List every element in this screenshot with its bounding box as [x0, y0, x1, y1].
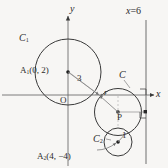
radius-label-1: 1 [122, 131, 127, 140]
x-axis-label: x [156, 89, 160, 99]
leader-c [124, 80, 130, 88]
circle-c1-label-sub: 1 [26, 36, 29, 43]
y-axis-label: y [70, 4, 74, 14]
vertical-line-label-value: 6 [136, 5, 141, 16]
center-a1-coords: (0, 2) [29, 65, 49, 75]
center-a2-coords: (4, −4) [46, 151, 71, 161]
circle-c2-label-text: C [93, 133, 100, 144]
vertical-line-label: x=6 [126, 6, 141, 16]
center-p-label: P [117, 113, 122, 122]
circle-c2-label: C2 [93, 134, 103, 145]
center-a2-label: A2(4, −4) [37, 152, 71, 162]
circle-c1-label-text: C [19, 32, 26, 43]
circle-c-label: C [119, 70, 126, 80]
leader-3 [70, 73, 99, 95]
origin-label: O [60, 96, 67, 105]
center-a1-label: A1(0, 2) [20, 66, 49, 76]
radius-segment-r [100, 96, 119, 113]
right-angle-mark-axis [140, 89, 146, 95]
circle-c2-label-sub: 2 [100, 137, 103, 144]
radius-label-r: r [104, 88, 108, 97]
radius-label-3: 3 [77, 74, 82, 83]
figure-canvas [0, 0, 168, 168]
leader-c2 [106, 139, 111, 140]
tangency-dot-line [144, 110, 147, 113]
geometry-figure: y x O x=6 C1 C C2 A1(0, 2) A2(4, −4) 3 r… [0, 0, 168, 168]
circle-c1-label: C1 [19, 33, 29, 44]
